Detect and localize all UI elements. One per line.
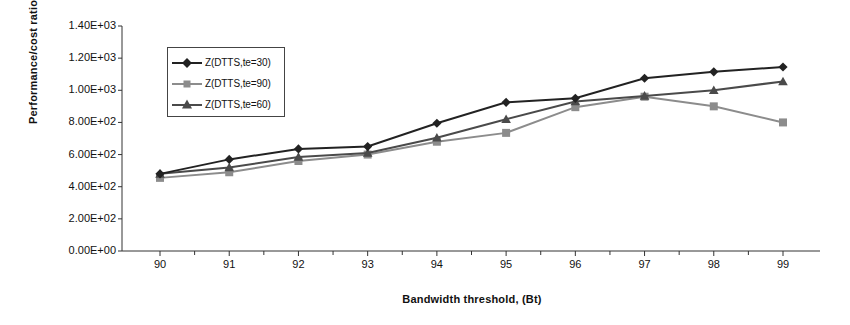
x-axis-tick-label: 92 — [281, 258, 315, 270]
legend-item[interactable]: Z(DTTS,te=30) — [172, 52, 280, 73]
x-axis-tick-label: 99 — [766, 258, 800, 270]
data-point-diamond — [778, 62, 787, 71]
chart-legend: Z(DTTS,te=30) Z(DTTS,te=90) Z(DTTS,te=60… — [167, 47, 285, 117]
data-point-diamond — [502, 98, 511, 107]
data-point-diamond — [294, 144, 303, 153]
legend-item[interactable]: Z(DTTS,te=60) — [172, 94, 280, 115]
legend-label: Z(DTTS,te=90) — [205, 78, 271, 89]
legend-label: Z(DTTS,te=30) — [205, 57, 271, 68]
data-point-square — [710, 102, 718, 110]
chart-container: Performance/cost ratio (Z) 1.40E+031.20E… — [0, 0, 850, 325]
legend-marker-diamond-icon — [172, 57, 202, 69]
x-axis-tick-label: 93 — [351, 258, 385, 270]
legend-marker-shape — [182, 99, 192, 108]
legend-item[interactable]: Z(DTTS,te=90) — [172, 73, 280, 94]
legend-marker-triangle-icon — [172, 99, 202, 111]
data-point-diamond — [640, 74, 649, 83]
x-axis-title: Bandwidth threshold, (Bt) — [122, 293, 822, 305]
data-point-diamond — [225, 155, 234, 164]
x-axis-tick-label: 90 — [143, 258, 177, 270]
data-point-square — [779, 118, 787, 126]
legend-marker-shape — [182, 58, 192, 68]
data-point-square — [502, 129, 510, 137]
x-axis-tick-label: 91 — [212, 258, 246, 270]
x-axis-tick-label: 94 — [420, 258, 454, 270]
x-axis-tick-label: 95 — [489, 258, 523, 270]
x-axis-tick-label: 96 — [558, 258, 592, 270]
legend-marker-square-icon — [172, 78, 202, 90]
data-point-diamond — [709, 67, 718, 76]
data-point-diamond — [432, 119, 441, 128]
plot-area — [0, 0, 850, 325]
legend-label: Z(DTTS,te=60) — [205, 99, 271, 110]
x-axis-tick-label: 98 — [697, 258, 731, 270]
x-axis-tick-label: 97 — [628, 258, 662, 270]
legend-marker-shape — [184, 80, 191, 87]
data-point-diamond — [363, 142, 372, 151]
